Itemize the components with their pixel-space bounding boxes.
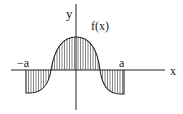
neg-a-label: −a — [17, 56, 30, 70]
function-label: f(x) — [91, 19, 109, 33]
function-diagram: y f(x) −a a x — [0, 0, 183, 114]
hump-hatching — [52, 30, 98, 70]
y-axis-label: y — [66, 6, 73, 21]
pos-a-label: a — [119, 56, 125, 70]
x-axis-label: x — [170, 64, 176, 78]
